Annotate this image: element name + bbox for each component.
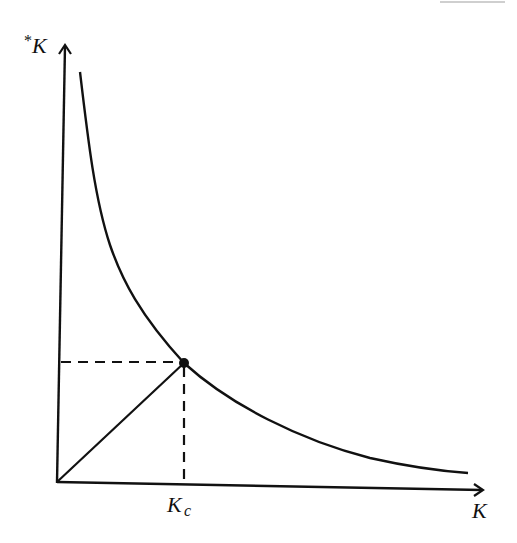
diagram-canvas: * K K K c bbox=[0, 0, 517, 543]
x-axis-label: K bbox=[471, 498, 488, 523]
y-axis bbox=[57, 45, 71, 483]
y-axis-label-prefix: * bbox=[24, 32, 32, 49]
kc-label: K bbox=[166, 492, 183, 517]
kc-subscript: c bbox=[184, 502, 191, 519]
ray-line bbox=[57, 363, 184, 482]
demand-curve bbox=[80, 72, 468, 473]
y-axis-label: K bbox=[31, 33, 48, 58]
x-axis bbox=[57, 482, 483, 496]
intersection-point bbox=[179, 358, 189, 368]
